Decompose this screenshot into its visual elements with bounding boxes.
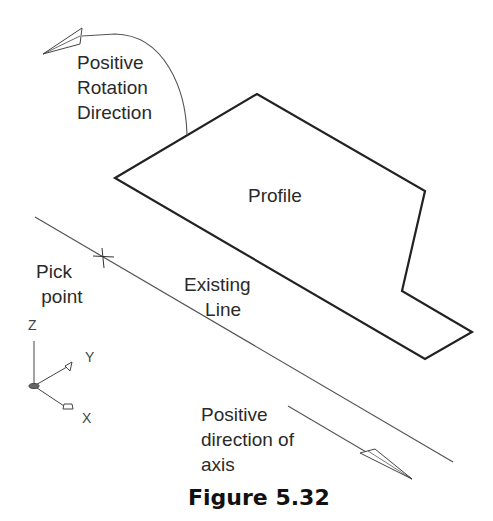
pick-point-label: Pick point	[36, 259, 82, 309]
profile-shape	[115, 94, 472, 359]
existing-line-label: Existing Line	[184, 272, 251, 322]
figure-caption: Figure 5.32	[188, 485, 330, 510]
ucs-axis-icon	[29, 341, 73, 409]
pick-point-cross-icon	[93, 248, 114, 268]
axis-arrow-icon	[360, 449, 412, 479]
y-axis-label: Y	[85, 349, 94, 365]
x-axis-label: X	[82, 410, 91, 426]
axis-direction-label: Positive direction of axis	[201, 402, 294, 477]
z-axis-label: Z	[28, 317, 37, 333]
rotation-label: Positive Rotation Direction	[77, 50, 152, 125]
profile-label: Profile	[248, 183, 302, 208]
